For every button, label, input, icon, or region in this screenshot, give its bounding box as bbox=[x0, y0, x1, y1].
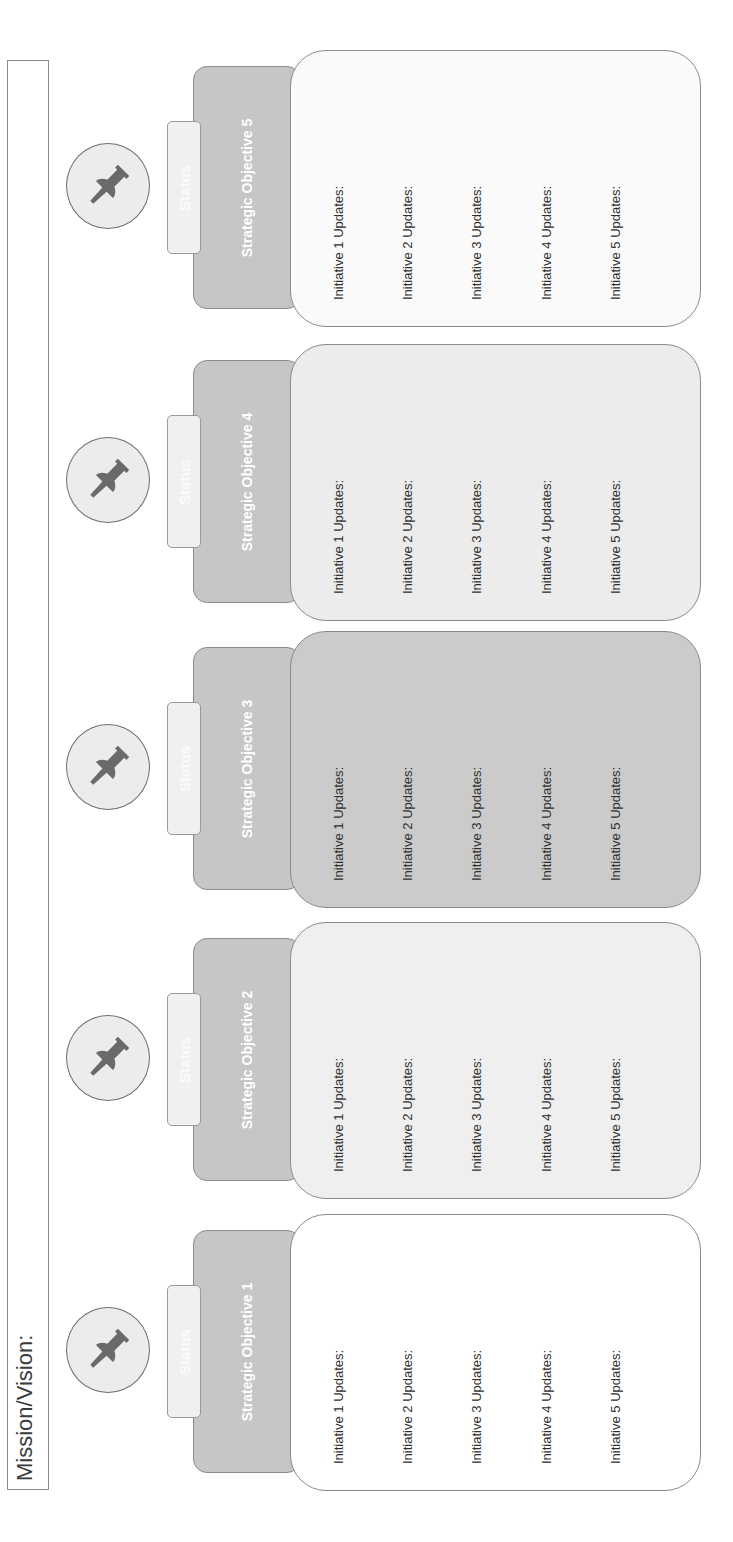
initiative-5-updates[interactable]: Initiative 5 Updates: bbox=[606, 345, 626, 620]
initiative-4-updates[interactable]: Initiative 4 Updates: bbox=[537, 923, 557, 1198]
initiative-3-updates[interactable]: Initiative 3 Updates: bbox=[467, 345, 487, 620]
objective-header[interactable]: Strategic Objective 3 bbox=[193, 647, 301, 890]
initiative-label: Initiative 2 Updates: bbox=[400, 767, 415, 881]
initiative-3-updates[interactable]: Initiative 3 Updates: bbox=[467, 923, 487, 1198]
objective-updates-panel[interactable]: Initiative 1 Updates:Initiative 2 Update… bbox=[290, 1214, 701, 1491]
pin-circle bbox=[66, 724, 150, 810]
initiative-label: Initiative 3 Updates: bbox=[469, 1058, 484, 1172]
pin-circle bbox=[66, 1015, 150, 1101]
initiative-5-updates[interactable]: Initiative 5 Updates: bbox=[606, 632, 626, 907]
initiative-4-updates[interactable]: Initiative 4 Updates: bbox=[537, 632, 557, 907]
objective-header[interactable]: Strategic Objective 1 bbox=[193, 1230, 301, 1473]
objective-updates-panel[interactable]: Initiative 1 Updates:Initiative 2 Update… bbox=[290, 631, 701, 908]
initiative-label: Initiative 5 Updates: bbox=[608, 186, 623, 300]
initiative-label: Initiative 5 Updates: bbox=[608, 767, 623, 881]
objective-title: Strategic Objective 4 bbox=[239, 412, 255, 551]
initiative-4-updates[interactable]: Initiative 4 Updates: bbox=[537, 1215, 557, 1490]
initiative-label: Initiative 3 Updates: bbox=[469, 186, 484, 300]
objective-title: Strategic Objective 5 bbox=[239, 118, 255, 257]
initiative-1-updates[interactable]: Initiative 1 Updates: bbox=[329, 1215, 349, 1490]
objective-updates-panel[interactable]: Initiative 1 Updates:Initiative 2 Update… bbox=[290, 922, 701, 1199]
pushpin-icon bbox=[78, 156, 138, 216]
status-label: Status bbox=[176, 165, 193, 211]
initiative-label: Initiative 2 Updates: bbox=[400, 186, 415, 300]
mission-vision-label: Mission/Vision: bbox=[12, 1335, 38, 1481]
initiative-1-updates[interactable]: Initiative 1 Updates: bbox=[329, 51, 349, 326]
initiative-label: Initiative 1 Updates: bbox=[331, 480, 346, 594]
initiative-label: Initiative 1 Updates: bbox=[331, 186, 346, 300]
initiative-label: Initiative 4 Updates: bbox=[539, 1058, 554, 1172]
objective-title: Strategic Objective 3 bbox=[239, 699, 255, 838]
initiative-2-updates[interactable]: Initiative 2 Updates: bbox=[398, 51, 418, 326]
initiative-label: Initiative 4 Updates: bbox=[539, 1350, 554, 1464]
objective-header[interactable]: Strategic Objective 5 bbox=[193, 66, 301, 309]
objective-title: Strategic Objective 2 bbox=[239, 990, 255, 1129]
pushpin-icon bbox=[78, 1028, 138, 1088]
initiative-4-updates[interactable]: Initiative 4 Updates: bbox=[537, 345, 557, 620]
initiative-label: Initiative 1 Updates: bbox=[331, 767, 346, 881]
objective-header[interactable]: Strategic Objective 4 bbox=[193, 360, 301, 603]
initiative-3-updates[interactable]: Initiative 3 Updates: bbox=[467, 1215, 487, 1490]
objective-title: Strategic Objective 1 bbox=[239, 1282, 255, 1421]
initiative-label: Initiative 4 Updates: bbox=[539, 480, 554, 594]
pin-circle bbox=[66, 1307, 150, 1393]
pushpin-icon bbox=[78, 737, 138, 797]
initiative-1-updates[interactable]: Initiative 1 Updates: bbox=[329, 345, 349, 620]
initiative-label: Initiative 3 Updates: bbox=[469, 767, 484, 881]
status-tab[interactable]: Status bbox=[167, 121, 201, 254]
initiative-5-updates[interactable]: Initiative 5 Updates: bbox=[606, 923, 626, 1198]
initiative-label: Initiative 2 Updates: bbox=[400, 1058, 415, 1172]
initiative-label: Initiative 5 Updates: bbox=[608, 1350, 623, 1464]
initiative-label: Initiative 2 Updates: bbox=[400, 480, 415, 594]
initiative-2-updates[interactable]: Initiative 2 Updates: bbox=[398, 345, 418, 620]
initiative-label: Initiative 5 Updates: bbox=[608, 1058, 623, 1172]
pushpin-icon bbox=[78, 1320, 138, 1380]
initiative-3-updates[interactable]: Initiative 3 Updates: bbox=[467, 632, 487, 907]
status-label: Status bbox=[176, 746, 193, 792]
initiative-2-updates[interactable]: Initiative 2 Updates: bbox=[398, 1215, 418, 1490]
objective-updates-panel[interactable]: Initiative 1 Updates:Initiative 2 Update… bbox=[290, 50, 701, 327]
initiative-1-updates[interactable]: Initiative 1 Updates: bbox=[329, 632, 349, 907]
initiative-5-updates[interactable]: Initiative 5 Updates: bbox=[606, 51, 626, 326]
initiative-2-updates[interactable]: Initiative 2 Updates: bbox=[398, 632, 418, 907]
initiative-label: Initiative 5 Updates: bbox=[608, 480, 623, 594]
objective-updates-panel[interactable]: Initiative 1 Updates:Initiative 2 Update… bbox=[290, 344, 701, 621]
status-tab[interactable]: Status bbox=[167, 702, 201, 835]
pin-circle bbox=[66, 143, 150, 229]
initiative-label: Initiative 2 Updates: bbox=[400, 1350, 415, 1464]
initiative-label: Initiative 1 Updates: bbox=[331, 1350, 346, 1464]
status-tab[interactable]: Status bbox=[167, 415, 201, 548]
objective-header[interactable]: Strategic Objective 2 bbox=[193, 938, 301, 1181]
status-label: Status bbox=[176, 1329, 193, 1375]
initiative-label: Initiative 1 Updates: bbox=[331, 1058, 346, 1172]
status-tab[interactable]: Status bbox=[167, 1285, 201, 1418]
pin-circle bbox=[66, 437, 150, 523]
initiative-label: Initiative 4 Updates: bbox=[539, 186, 554, 300]
status-label: Status bbox=[176, 459, 193, 505]
initiative-3-updates[interactable]: Initiative 3 Updates: bbox=[467, 51, 487, 326]
initiative-2-updates[interactable]: Initiative 2 Updates: bbox=[398, 923, 418, 1198]
initiative-4-updates[interactable]: Initiative 4 Updates: bbox=[537, 51, 557, 326]
initiative-1-updates[interactable]: Initiative 1 Updates: bbox=[329, 923, 349, 1198]
status-tab[interactable]: Status bbox=[167, 993, 201, 1126]
status-label: Status bbox=[176, 1037, 193, 1083]
strategic-objective-5: Strategic Objective 5 Status Initiative … bbox=[0, 0, 733, 280]
initiative-label: Initiative 4 Updates: bbox=[539, 767, 554, 881]
initiative-5-updates[interactable]: Initiative 5 Updates: bbox=[606, 1215, 626, 1490]
pushpin-icon bbox=[78, 450, 138, 510]
initiative-label: Initiative 3 Updates: bbox=[469, 1350, 484, 1464]
initiative-label: Initiative 3 Updates: bbox=[469, 480, 484, 594]
